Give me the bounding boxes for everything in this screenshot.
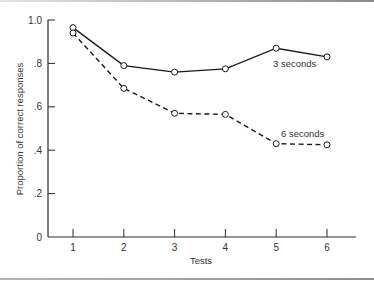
y-axis-title: Proportion of correct responses (14, 62, 25, 195)
x-tick-label: 6 (324, 242, 330, 253)
x-tick-label: 5 (273, 242, 279, 253)
y-tick-label: .8 (34, 58, 43, 69)
data-point-marker (222, 66, 228, 72)
data-point-marker (172, 110, 178, 116)
x-tick-label: 4 (223, 242, 229, 253)
series-label-6-seconds: 6 seconds (281, 128, 325, 139)
line-chart: 0.2.4.6.81.0123456 Proportion of correct… (0, 0, 374, 284)
y-tick-label: .2 (34, 188, 43, 199)
data-point-marker (121, 63, 127, 69)
data-point-marker (273, 141, 279, 147)
y-tick-label: .6 (34, 101, 43, 112)
data-point-marker (273, 45, 279, 51)
data-point-marker (324, 142, 330, 148)
data-point-marker (324, 54, 330, 60)
data-point-marker (121, 85, 127, 91)
x-axis-title: Tests (190, 255, 212, 266)
y-tick-label: 0 (36, 232, 42, 243)
x-tick-label: 1 (70, 242, 76, 253)
y-tick-label: 1.0 (28, 15, 42, 26)
data-point-marker (172, 69, 178, 75)
x-tick-label: 3 (172, 242, 178, 253)
series-label-3-seconds: 3 seconds (273, 58, 317, 69)
y-tick-label: .4 (34, 145, 43, 156)
data-point-marker (70, 30, 76, 36)
data-point-marker (222, 111, 228, 117)
x-tick-label: 2 (121, 242, 127, 253)
